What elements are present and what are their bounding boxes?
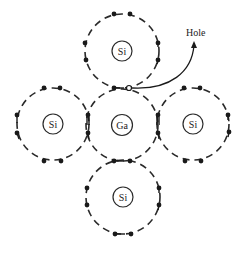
atom-right-si: Si <box>183 114 203 134</box>
electron <box>156 113 161 118</box>
hole-marker <box>127 86 132 91</box>
atom-center-ga: Ga <box>112 115 133 136</box>
electron <box>58 86 63 91</box>
electron <box>128 12 133 17</box>
arrowhead-icon <box>191 41 197 48</box>
electron <box>83 41 88 46</box>
atom-label: Si <box>119 192 128 203</box>
electron <box>199 159 204 164</box>
atom-label: Si <box>189 119 198 130</box>
electron <box>42 86 47 91</box>
ga-doped-silicon-lattice-diagram: Si Si Ga Si Si Hole <box>0 0 244 253</box>
electron <box>86 113 91 118</box>
atom-top-si: Si <box>112 41 132 61</box>
electron <box>112 12 117 17</box>
electron <box>84 58 89 63</box>
electron <box>85 186 90 191</box>
hole-label: Hole <box>186 27 206 38</box>
electron <box>59 159 64 164</box>
electron <box>42 159 47 164</box>
atom-label: Si <box>49 119 58 130</box>
electron <box>129 232 134 237</box>
atom-bottom-si: Si <box>113 187 133 207</box>
electron <box>198 86 203 91</box>
atom-label: Ga <box>116 120 128 131</box>
electron <box>182 86 187 91</box>
electron <box>128 159 133 164</box>
electron <box>183 159 188 164</box>
atom-label: Si <box>118 46 127 57</box>
nuclei: Si Si Ga Si Si <box>43 41 203 207</box>
atom-left-si: Si <box>43 114 63 134</box>
electron <box>85 203 90 208</box>
